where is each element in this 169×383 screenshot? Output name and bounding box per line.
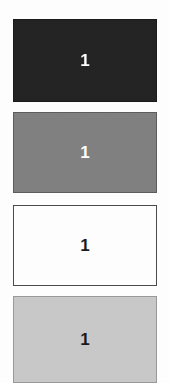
color-swatch[interactable]: 1 (13, 296, 157, 383)
swatch-label: 1 (80, 52, 89, 69)
swatch-label: 1 (80, 237, 89, 254)
swatch-label: 1 (80, 331, 89, 348)
color-swatch[interactable]: 1 (13, 205, 157, 286)
swatch-label: 1 (80, 144, 89, 161)
color-swatch[interactable]: 1 (13, 112, 157, 193)
swatch-stack: 1 1 1 1 (0, 0, 169, 383)
color-swatch[interactable]: 1 (13, 19, 157, 102)
